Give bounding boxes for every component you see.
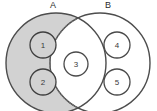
element-2-label: 2 (41, 78, 46, 87)
element-node-1: 1 (30, 32, 56, 58)
element-3-label: 3 (74, 60, 79, 69)
element-5-label: 5 (115, 78, 120, 87)
element-node-3: 3 (64, 52, 88, 76)
element-node-2: 2 (30, 69, 56, 95)
venn-diagram: A B 1 2 3 4 5 (0, 0, 157, 111)
element-1-label: 1 (41, 41, 46, 50)
venn-diagram-canvas: A B 1 2 3 4 5 (0, 0, 157, 111)
element-4-label: 4 (115, 41, 120, 50)
set-b-label: B (105, 0, 111, 10)
element-node-5: 5 (104, 69, 130, 95)
element-node-4: 4 (104, 32, 130, 58)
set-a-label: A (50, 0, 56, 10)
